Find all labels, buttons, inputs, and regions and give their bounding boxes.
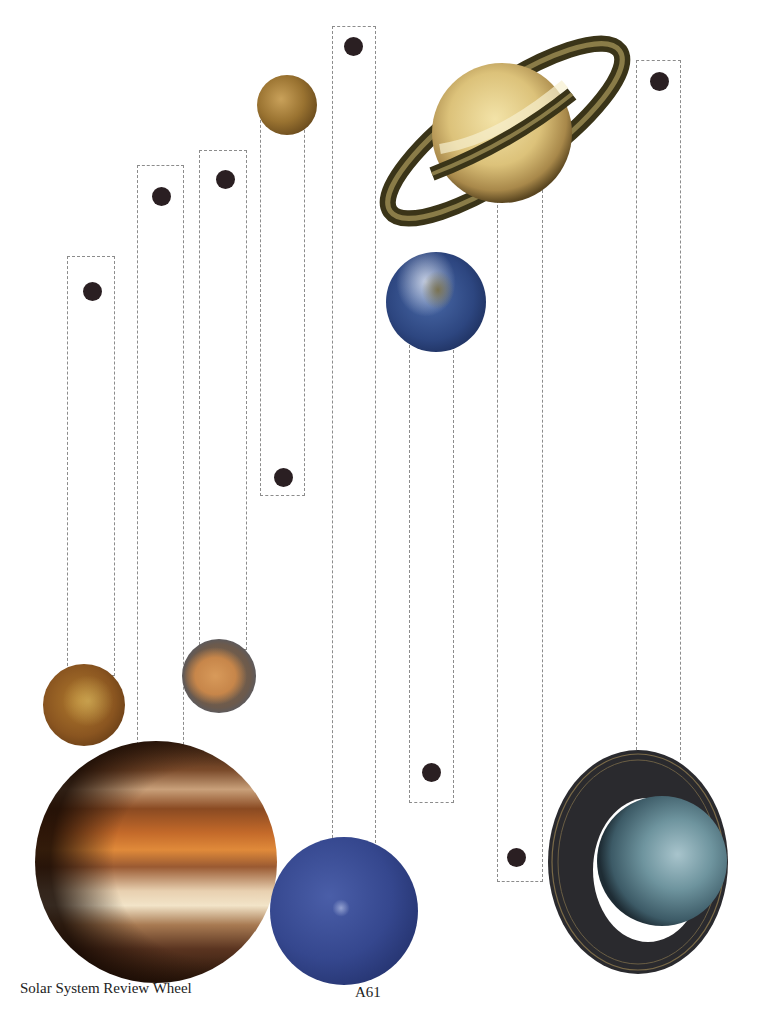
planet-uranus [540, 745, 740, 980]
cutout-strip-saturn [497, 190, 543, 882]
planet-jupiter [35, 741, 277, 983]
planet-neptune [270, 837, 418, 985]
planet-mars [182, 639, 256, 713]
punch-hole-dot [216, 170, 235, 189]
punch-hole-dot [152, 187, 171, 206]
punch-hole-dot [422, 763, 441, 782]
punch-hole-dot [274, 468, 293, 487]
planet-mercury [257, 75, 317, 135]
planet-venus [43, 664, 125, 746]
cutout-strip-venus [67, 256, 115, 676]
punch-hole-dot [507, 848, 526, 867]
cutout-strip-mars [199, 150, 247, 650]
punch-hole-dot [650, 72, 669, 91]
cutout-strip-earth [409, 330, 454, 803]
planet-saturn [370, 24, 640, 239]
planet-earth [386, 252, 486, 352]
cutout-strip-mercury [260, 100, 305, 496]
cutout-strip-jupiter [137, 165, 184, 755]
worksheet-title: Solar System Review Wheel [20, 980, 192, 997]
punch-hole-dot [344, 37, 363, 56]
punch-hole-dot [83, 282, 102, 301]
page-number: A61 [355, 984, 381, 1001]
cutout-strip-uranus [636, 60, 681, 760]
